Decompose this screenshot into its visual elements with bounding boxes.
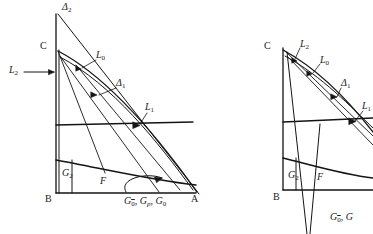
right-ray-b [288, 57, 373, 145]
label-left-g2: G2 [62, 168, 73, 180]
label-right-l1: L1 [362, 101, 371, 113]
diagram-canvas [0, 0, 373, 234]
label-left-delta1: Δ1 [116, 78, 125, 90]
label-right-l0: L0 [320, 55, 329, 67]
label-left-l0: L0 [96, 50, 105, 62]
label-right-f: F [317, 172, 323, 182]
label-left-vertex-c: C [40, 41, 47, 51]
label-right-g2: G2 [288, 170, 299, 182]
label-left-g-group: G0, Gp, G0 [124, 196, 166, 208]
left-node-delta1 [91, 92, 97, 98]
right-v-left-leg [287, 52, 307, 234]
left-tie-delta1 [76, 65, 180, 190]
left-c-to-a-curve [58, 51, 197, 192]
left-ray-c-to-f [58, 51, 105, 173]
left-leader-l0 [82, 60, 96, 68]
label-right-l2: L2 [300, 39, 309, 51]
label-left-l2: L2 [9, 65, 18, 77]
right-upper-tie-line [283, 118, 373, 122]
label-right-vertex-c: C [264, 41, 271, 51]
label-left-f: F [100, 176, 106, 186]
label-left-l1: L1 [145, 102, 154, 114]
left-panel-geometry [24, 14, 199, 194]
label-right-g-group: G0, G [330, 212, 353, 224]
right-leader-l0 [313, 64, 320, 73]
label-left-delta2: Δ2 [62, 2, 71, 14]
label-right-vertex-b: B [273, 192, 280, 202]
left-arrow-l2-head [49, 70, 55, 75]
figure-root: Δ2 C L0 L2 Δ1 L1 G2 F B A G0, Gp, G0 C L… [0, 0, 373, 234]
label-left-vertex-b: B [45, 194, 52, 204]
label-right-delta1: Δ1 [341, 78, 350, 90]
label-left-vertex-a: A [191, 194, 198, 204]
right-panel-geometry [283, 48, 373, 234]
